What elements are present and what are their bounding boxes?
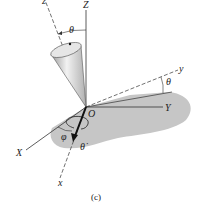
phi-label: φ: [61, 131, 67, 142]
cone-marker-dot: [69, 43, 71, 45]
theta-top-label: θ: [69, 24, 74, 35]
theta-right-label: θ: [166, 76, 171, 87]
figure-caption: (c): [91, 192, 101, 202]
X-axis-label: X: [15, 147, 23, 158]
spinning-top-diagram: Z z θ y θ Y O X φ θ̇ x (c): [0, 0, 200, 203]
z-axis-label: z: [41, 0, 46, 6]
Z-axis-label: Z: [83, 0, 89, 10]
origin-label: O: [88, 108, 95, 119]
theta-angle-arc-right: [161, 77, 163, 93]
y-axis-label: y: [178, 63, 184, 74]
ground-plane-shadow: [51, 92, 191, 148]
arrow-head: [58, 31, 62, 35]
x-axis-label: x: [57, 177, 63, 188]
